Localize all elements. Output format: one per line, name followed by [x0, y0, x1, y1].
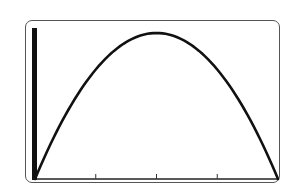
- y-axis: [32, 28, 37, 180]
- parabola-plot: [0, 0, 293, 192]
- parabola-curve: [35, 33, 278, 179]
